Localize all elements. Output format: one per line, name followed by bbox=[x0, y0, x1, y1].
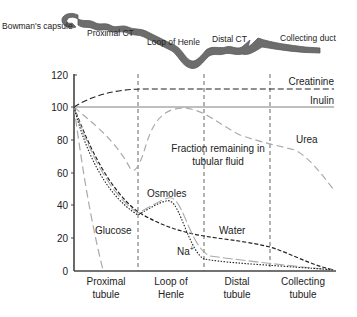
water-label: Water bbox=[219, 225, 246, 236]
svg-text:Loop of: Loop of bbox=[154, 276, 188, 287]
svg-text:0: 0 bbox=[62, 266, 68, 277]
glucose-line bbox=[74, 107, 103, 270]
glucose-label: Glucose bbox=[95, 225, 132, 236]
svg-text:60: 60 bbox=[57, 168, 69, 179]
svg-text:tubule: tubule bbox=[289, 289, 317, 300]
chart-title-line1: Fraction remaining in bbox=[171, 143, 264, 154]
loop-of-henle-label: Loop of Henle bbox=[147, 37, 200, 47]
proximal-ct-label: Proximal CT bbox=[87, 28, 134, 38]
svg-text:Distal: Distal bbox=[224, 276, 249, 287]
svg-text:120: 120 bbox=[51, 70, 68, 81]
inulin-label: Inulin bbox=[310, 95, 334, 106]
svg-text:20: 20 bbox=[57, 233, 69, 244]
segment-dividers bbox=[138, 74, 270, 271]
svg-text:tubule: tubule bbox=[92, 289, 120, 300]
chart-title-line2: tubular fluid bbox=[192, 156, 244, 167]
svg-text:Proximal: Proximal bbox=[87, 276, 126, 287]
axes bbox=[71, 74, 336, 271]
osmoles-label: Osmoles bbox=[147, 188, 186, 199]
urea-label: Urea bbox=[296, 134, 318, 145]
x-category-labels: Proximal tubule Loop of Henle Distal tub… bbox=[87, 276, 325, 300]
svg-text:40: 40 bbox=[57, 200, 69, 211]
svg-text:Henle: Henle bbox=[158, 289, 185, 300]
svg-text:Collecting: Collecting bbox=[281, 276, 325, 287]
svg-text:80: 80 bbox=[57, 135, 69, 146]
sodium-label: Na+ bbox=[177, 245, 194, 257]
creatinine-label: Creatinine bbox=[288, 76, 334, 87]
collecting-duct-label: Collecting duct bbox=[280, 33, 336, 43]
bowmans-capsule-label: Bowman's capsule bbox=[2, 21, 73, 31]
renal-tubule-diagram: Bowman's capsule Proximal CT Loop of Hen… bbox=[0, 0, 357, 317]
svg-text:100: 100 bbox=[51, 102, 68, 113]
svg-text:tubule: tubule bbox=[223, 289, 251, 300]
distal-ct-label: Distal CT bbox=[212, 34, 247, 44]
y-tick-labels: 120 100 80 60 40 20 0 bbox=[51, 70, 68, 277]
